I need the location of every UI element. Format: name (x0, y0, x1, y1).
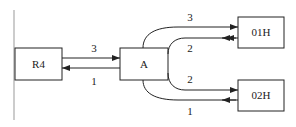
edge-a-to-01h-label: 3 (187, 11, 193, 23)
edge-a-to-02h (168, 73, 238, 90)
edge-02h-to-a-label: 1 (187, 105, 193, 117)
node-02h-label: 02H (252, 89, 271, 101)
edge-01h-to-a (168, 38, 238, 54)
node-02h: 02H (238, 80, 284, 111)
diagram-canvas: R4 A 01H 02H 3 1 3 2 2 1 (0, 0, 296, 127)
edge-01h-to-a-label: 2 (187, 42, 193, 54)
edge-a-to-r4-label: 1 (91, 75, 97, 87)
edge-r4-to-a-label: 3 (91, 42, 97, 54)
node-01h: 01H (238, 17, 284, 48)
node-01h-label: 01H (252, 26, 271, 38)
node-a: A (120, 48, 168, 80)
node-r4: R4 (15, 48, 62, 80)
node-a-label: A (140, 58, 148, 70)
edge-a-to-02h-label: 2 (187, 73, 193, 85)
node-r4-label: R4 (32, 58, 45, 70)
